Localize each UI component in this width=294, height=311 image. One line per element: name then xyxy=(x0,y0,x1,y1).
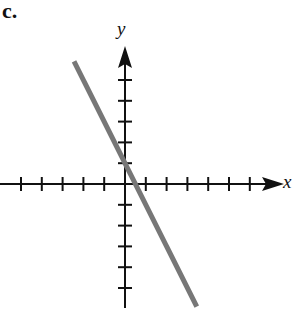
x-axis-label: x xyxy=(283,171,291,193)
part-label: c. xyxy=(2,0,17,24)
y-axis-label: y xyxy=(117,18,125,40)
x-axis xyxy=(0,177,284,191)
coordinate-plane xyxy=(0,0,294,311)
